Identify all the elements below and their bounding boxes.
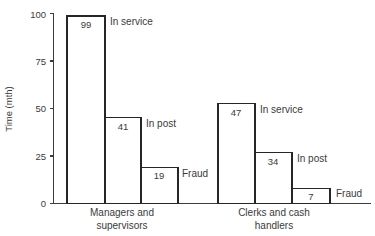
series-label-clerks-in-post: In post: [297, 153, 327, 164]
category-label-managers-line1: Managers and: [90, 207, 154, 218]
y-tick-label-25: 25: [35, 151, 46, 162]
series-label-clerks-fraud: Fraud: [336, 188, 362, 199]
y-tick-label-50: 50: [35, 103, 46, 114]
series-label-managers-fraud: Fraud: [182, 168, 208, 179]
category-label-clerks-line2: handlers: [255, 220, 293, 231]
bar-value-clerks-in-service: 47: [231, 107, 242, 118]
series-label-managers-in-post: In post: [146, 118, 176, 129]
bar-value-managers-in-service: 99: [81, 19, 92, 30]
series-label-managers-in-service: In service: [110, 16, 153, 27]
category-label-managers-line2: supervisors: [96, 220, 147, 231]
y-tick-label-0: 0: [41, 198, 46, 209]
series-label-clerks-in-service: In service: [260, 104, 303, 115]
y-axis-label: Time (mth): [3, 86, 14, 132]
bar-managers-in-service[interactable]: [67, 16, 105, 204]
category-label-clerks-line1: Clerks and cash: [238, 207, 310, 218]
chart-canvas: Time (mth) 100 75 50 25 0 99 In service …: [0, 0, 375, 236]
y-tick-label-75: 75: [35, 56, 46, 67]
bar-value-clerks-in-post: 34: [268, 156, 279, 167]
bar-value-managers-in-post: 41: [118, 121, 129, 132]
bar-clerks-in-service[interactable]: [218, 104, 255, 204]
bar-value-managers-fraud: 19: [154, 170, 165, 181]
y-tick-label-100: 100: [30, 9, 46, 20]
bar-chart-figure: Time (mth) 100 75 50 25 0 99 In service …: [0, 0, 375, 236]
bar-value-clerks-fraud: 7: [308, 191, 313, 202]
